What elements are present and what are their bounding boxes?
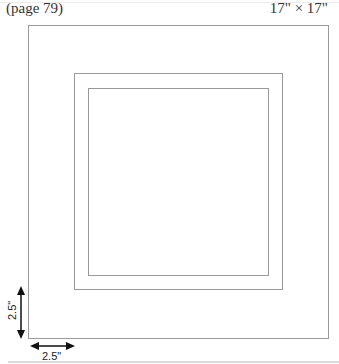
dimension-annotations: 2.5" 2.5" (0, 0, 339, 364)
bottom-rule (8, 361, 339, 363)
horizontal-dimension-arrow-icon (30, 342, 75, 350)
vertical-dimension-label: 2.5" (6, 301, 18, 320)
vertical-dimension-arrow-icon (17, 286, 25, 339)
